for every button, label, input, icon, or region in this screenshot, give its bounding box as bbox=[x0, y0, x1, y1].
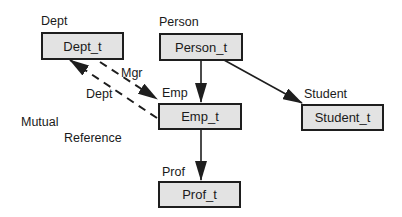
node-prof-t[interactable]: Prof_t bbox=[158, 181, 241, 208]
node-person-t-label: Person_t bbox=[175, 40, 227, 55]
type-label-dept: Dept bbox=[41, 15, 67, 28]
node-person-t[interactable]: Person_t bbox=[159, 33, 243, 61]
node-dept-t[interactable]: Dept_t bbox=[41, 32, 124, 60]
type-label-student: Student bbox=[304, 88, 347, 101]
annotation-mutual: Mutual bbox=[21, 116, 59, 129]
node-student-t[interactable]: Student_t bbox=[301, 104, 384, 131]
edge-dept bbox=[70, 60, 157, 118]
node-student-t-label: Student_t bbox=[315, 110, 371, 125]
edge-person-student bbox=[224, 60, 302, 103]
node-emp-t[interactable]: Emp_t bbox=[158, 103, 242, 130]
annotation-reference: Reference bbox=[64, 132, 122, 145]
node-emp-t-label: Emp_t bbox=[181, 109, 219, 124]
type-label-emp: Emp bbox=[162, 87, 188, 100]
type-label-prof: Prof bbox=[162, 166, 185, 179]
edge-label-mgr: Mgr bbox=[121, 67, 143, 80]
type-label-person: Person bbox=[159, 16, 199, 29]
node-prof-t-label: Prof_t bbox=[182, 187, 217, 202]
node-dept-t-label: Dept_t bbox=[63, 39, 101, 54]
edge-label-dept: Dept bbox=[86, 88, 112, 101]
diagram-canvas: Dept Dept_t Person Person_t Emp Emp_t St… bbox=[0, 0, 402, 217]
